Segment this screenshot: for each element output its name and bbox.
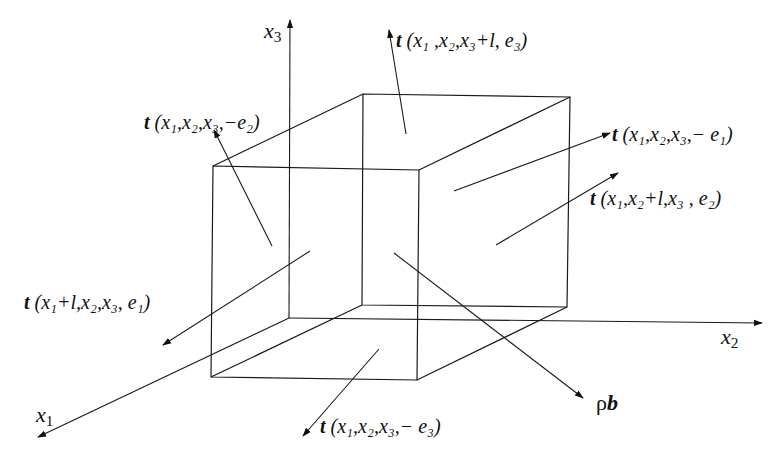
vector-left bbox=[214, 130, 272, 246]
label-traction-top: t (x₁ ,x₂,x₃+l, e₃) bbox=[396, 30, 527, 50]
vector-front bbox=[163, 251, 310, 345]
label-traction-bottom: t (x₁,x₂,x₃,− e₃) bbox=[320, 416, 441, 436]
cube-edge bbox=[419, 97, 570, 170]
traction-vectors bbox=[163, 30, 618, 436]
x3-axis-label: x3 bbox=[264, 20, 281, 44]
vector-right bbox=[496, 173, 618, 245]
label-traction-front: t (x₁+l,x₂,x₃, e₁) bbox=[24, 292, 150, 312]
cube-edge bbox=[211, 305, 362, 377]
cube bbox=[211, 94, 570, 380]
vector-body-force bbox=[394, 253, 583, 398]
cube-front-face bbox=[211, 166, 419, 380]
x1-axis-label: x1 bbox=[36, 404, 53, 428]
label-traction-back: t (x₁,x₂,x₃,− e₁) bbox=[612, 124, 733, 144]
label-traction-right: t (x₁,x₂+l,x₃ , e₂) bbox=[590, 188, 721, 208]
cube-back-face bbox=[362, 94, 570, 307]
coordinate-axes bbox=[38, 20, 762, 437]
x2-axis bbox=[289, 318, 762, 323]
label-body-force: ρb bbox=[596, 392, 618, 414]
label-traction-left: t (x₁,x₂,x₃,−e₂) bbox=[144, 112, 260, 132]
x2-axis-label: x2 bbox=[721, 326, 738, 350]
x3-axis bbox=[289, 20, 290, 318]
stress-cube-diagram bbox=[0, 0, 784, 462]
